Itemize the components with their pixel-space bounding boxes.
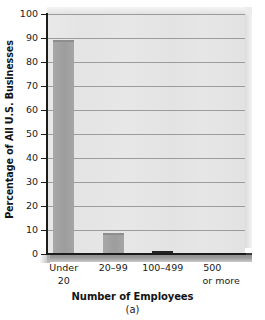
y-axis-tick xyxy=(41,134,47,135)
gridline xyxy=(47,182,245,183)
y-axis-tick-label: 10 xyxy=(26,225,38,235)
x-axis-tick-label-line2: or more xyxy=(181,275,261,288)
y-axis-tick xyxy=(41,62,47,63)
y-axis-tick-label: 90 xyxy=(26,33,38,43)
x-axis-tick-label: 500or more xyxy=(172,262,252,287)
plot-floor xyxy=(47,254,252,262)
y-axis-tick-label: 0 xyxy=(32,249,38,259)
gridline xyxy=(47,134,245,135)
plot-depth-corner xyxy=(245,7,252,14)
gridline xyxy=(47,158,245,159)
plot-depth-right xyxy=(245,8,252,248)
y-axis-tick-label: 60 xyxy=(26,105,38,115)
x-axis-title: Number of Employees xyxy=(0,291,265,302)
bar-face xyxy=(53,40,74,254)
bar-top-edge xyxy=(103,233,124,235)
y-axis-tick xyxy=(41,38,47,39)
bar-chart-figure: Percentage of All U.S. Businesses 100908… xyxy=(0,0,265,320)
y-axis-tick xyxy=(41,230,47,231)
x-axis-tick-label-line1: 500 xyxy=(203,262,221,273)
y-axis-tick-label: 20 xyxy=(26,201,38,211)
y-axis-tick-label: 80 xyxy=(26,57,38,67)
y-axis-tick xyxy=(41,158,47,159)
gridline xyxy=(47,110,245,111)
x-axis-tick-label-line2: 20 xyxy=(24,275,104,288)
y-axis-tick xyxy=(41,206,47,207)
bar-face xyxy=(103,233,124,254)
gridline xyxy=(47,14,245,15)
bar xyxy=(53,40,74,254)
figure-caption: (a) xyxy=(0,304,265,315)
plot-area xyxy=(47,14,245,254)
y-axis-tick xyxy=(41,86,47,87)
bar-top-edge xyxy=(53,40,74,42)
y-axis-tick-label: 70 xyxy=(26,81,38,91)
y-axis-tick xyxy=(41,14,47,15)
y-axis-tick-label: 100 xyxy=(20,9,38,19)
bar xyxy=(103,233,124,254)
y-axis-title: Percentage of All U.S. Businesses xyxy=(4,15,15,245)
y-axis-tick xyxy=(41,110,47,111)
gridline xyxy=(47,38,245,39)
gridline xyxy=(47,206,245,207)
y-axis-tick-label: 50 xyxy=(26,129,38,139)
gridline xyxy=(47,230,245,231)
gridline xyxy=(47,86,245,87)
y-axis-title-container: Percentage of All U.S. Businesses xyxy=(0,14,18,254)
y-axis-tick xyxy=(41,182,47,183)
y-axis-tick-label: 30 xyxy=(26,177,38,187)
y-axis-tick-label: 40 xyxy=(26,153,38,163)
gridline xyxy=(47,62,245,63)
y-axis-tick xyxy=(41,254,47,255)
x-axis-line xyxy=(46,253,246,255)
plot-depth-top xyxy=(47,7,245,14)
